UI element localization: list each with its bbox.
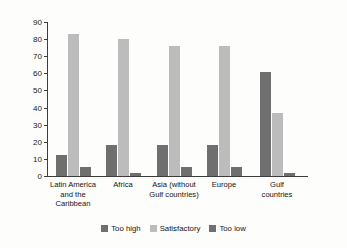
y-tick-mark [44, 22, 48, 23]
y-tick-label: 70 [33, 52, 42, 61]
legend-swatch-icon [150, 225, 157, 232]
y-tick-label: 60 [33, 69, 42, 78]
y-tick-mark [44, 125, 48, 126]
y-tick-label: 90 [33, 18, 42, 27]
bar [181, 167, 192, 176]
legend-label: Too low [219, 224, 245, 233]
x-axis-label: Gulf countries [246, 180, 308, 199]
bar [272, 113, 283, 176]
y-axis-line [47, 22, 48, 177]
y-tick-label: 50 [33, 86, 42, 95]
x-axis-line [47, 176, 308, 177]
y-tick-mark [44, 39, 48, 40]
bar-group [157, 22, 192, 176]
legend-swatch-icon [101, 225, 108, 232]
x-axis-category-labels: Latin America and the CaribbeanAfricaAsi… [47, 180, 309, 220]
bar [231, 167, 242, 176]
y-tick-label: 80 [33, 35, 42, 44]
bar [56, 155, 67, 176]
y-tick-label: 40 [33, 103, 42, 112]
bar [157, 145, 168, 176]
y-tick-mark [44, 159, 48, 160]
y-tick-label: 10 [33, 154, 42, 163]
bar [68, 34, 79, 176]
bar [169, 46, 180, 176]
legend-label: Too high [111, 224, 140, 233]
bar [260, 72, 271, 176]
y-tick-label: 20 [33, 137, 42, 146]
chart-legend: Too highSatisfactoryToo low [0, 224, 347, 233]
bar-group [106, 22, 141, 176]
y-tick-mark [44, 56, 48, 57]
y-tick-label: 30 [33, 120, 42, 129]
bar [219, 46, 230, 176]
bar [207, 145, 218, 176]
bar-group [207, 22, 242, 176]
legend-item: Satisfactory [150, 224, 201, 233]
bar [130, 173, 141, 176]
y-tick-mark [44, 90, 48, 91]
legend-item: Too high [101, 224, 140, 233]
chart-figure: Share of respondents (%) 010203040506070… [0, 0, 347, 248]
y-tick-mark [44, 176, 48, 177]
y-tick-mark [44, 108, 48, 109]
y-tick-mark [44, 73, 48, 74]
bar [106, 145, 117, 176]
bar-group [56, 22, 91, 176]
bar [118, 39, 129, 176]
legend-item: Too low [209, 224, 245, 233]
bar [284, 173, 295, 176]
bar-group [260, 22, 295, 176]
bar [80, 167, 91, 176]
y-tick-mark [44, 142, 48, 143]
legend-swatch-icon [209, 225, 216, 232]
plot-area: 0102030405060708090 [47, 22, 307, 176]
legend-label: Satisfactory [160, 224, 201, 233]
